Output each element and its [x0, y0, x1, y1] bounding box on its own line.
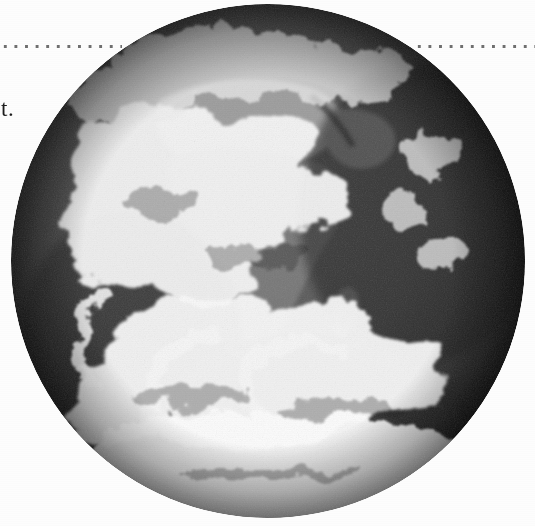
dotted-rule-right [414, 44, 535, 49]
earth-satellite-photograph [11, 4, 525, 518]
globe-image [11, 4, 525, 518]
dotted-rule-left [0, 44, 122, 49]
photo-grain [11, 4, 525, 518]
body-text-fragment: t. [1, 96, 14, 122]
scanned-page: t. [0, 0, 535, 526]
